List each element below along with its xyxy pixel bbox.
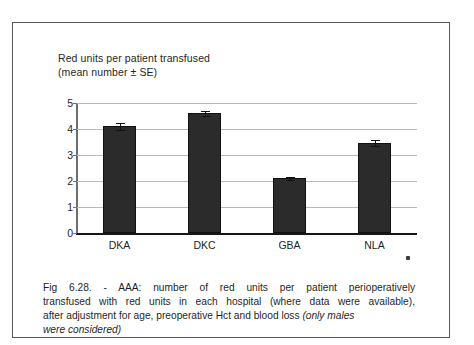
caption-line-3-roman: after adjustment for age, preoperative H… bbox=[43, 310, 302, 321]
error-cap-gba-lower bbox=[286, 180, 295, 181]
bar-dka bbox=[103, 126, 136, 233]
bar-dkc bbox=[188, 113, 221, 233]
y-tick-label: 1 bbox=[67, 202, 73, 213]
chart-title-line-2: (mean number ± SE) bbox=[58, 65, 210, 79]
caption-line-2: transfused with red units in each hospit… bbox=[43, 295, 415, 309]
bar-nla bbox=[358, 143, 391, 233]
x-axis-line bbox=[76, 233, 417, 235]
bar-chart: 012345 DKADKCGBANLA bbox=[45, 103, 429, 243]
y-tick-label: 3 bbox=[67, 150, 73, 161]
y-tickmark bbox=[73, 129, 77, 130]
error-cap-dka-upper bbox=[116, 123, 125, 124]
error-cap-nla-lower bbox=[371, 146, 380, 147]
caption-line-3-italic: (only males bbox=[302, 310, 354, 321]
error-cap-dkc-lower bbox=[201, 116, 210, 117]
x-label-gba: GBA bbox=[278, 239, 300, 251]
bar-gba bbox=[273, 178, 306, 233]
error-cap-nla-upper bbox=[371, 140, 380, 141]
error-cap-dka-lower bbox=[116, 130, 125, 131]
chart-title: Red units per patient transfused (mean n… bbox=[58, 51, 210, 79]
figure-caption: Fig 6.28. - AAA: number of red units per… bbox=[43, 281, 415, 337]
y-tickmark bbox=[73, 103, 77, 104]
plot-area: 012345 DKADKCGBANLA bbox=[77, 103, 417, 233]
x-label-dkc: DKC bbox=[193, 239, 215, 251]
y-tickmark bbox=[73, 233, 77, 234]
figure-frame: Red units per patient transfused (mean n… bbox=[12, 22, 450, 338]
x-label-nla: NLA bbox=[364, 239, 384, 251]
x-label-dka: DKA bbox=[109, 239, 131, 251]
y-axis-line bbox=[76, 103, 78, 233]
y-tickmark bbox=[73, 181, 77, 182]
y-tickmark bbox=[73, 155, 77, 156]
error-cap-dkc-upper bbox=[201, 111, 210, 112]
y-tickmark bbox=[73, 207, 77, 208]
y-tick-label: 4 bbox=[67, 124, 73, 135]
gridline bbox=[77, 103, 417, 104]
error-cap-gba-upper bbox=[286, 177, 295, 178]
chart-title-line-1: Red units per patient transfused bbox=[58, 51, 210, 65]
y-tick-label: 2 bbox=[67, 176, 73, 187]
y-tick-label: 0 bbox=[67, 228, 73, 239]
scan-artifact-dot bbox=[406, 256, 410, 260]
caption-line-3: after adjustment for age, preoperative H… bbox=[43, 309, 415, 323]
caption-line-1: Fig 6.28. - AAA: number of red units per… bbox=[43, 281, 415, 295]
y-tick-label: 5 bbox=[67, 98, 73, 109]
caption-line-4-italic: were considered) bbox=[43, 323, 415, 337]
